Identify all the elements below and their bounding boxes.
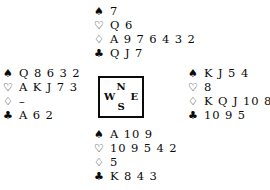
spade-icon: ♠ xyxy=(188,67,199,81)
north-clubs-line: ♣ Q J 7 xyxy=(94,46,196,60)
heart-icon: ♡ xyxy=(188,81,199,95)
club-icon: ♣ xyxy=(94,170,105,184)
heart-icon: ♡ xyxy=(94,142,105,156)
heart-icon: ♡ xyxy=(94,19,105,33)
heart-icon: ♡ xyxy=(3,81,14,95)
west-diamonds-cards: – xyxy=(14,94,26,108)
north-hearts-cards: Q 6 xyxy=(105,18,133,32)
south-spades-cards: A 10 9 xyxy=(105,127,153,141)
north-diamonds-cards: A 9 7 6 4 3 2 xyxy=(105,32,196,46)
club-icon: ♣ xyxy=(3,109,14,123)
bridge-deal-diagram: ♠ 7 ♡ Q 6 ♢ A 9 7 6 4 3 2 ♣ Q J 7 ♠ Q 8 … xyxy=(0,0,270,190)
west-clubs-line: ♣ A 6 2 xyxy=(3,108,80,122)
spade-icon: ♠ xyxy=(94,128,105,142)
west-spades-cards: Q 8 6 3 2 xyxy=(14,66,80,80)
hand-south: ♠ A 10 9 ♡ 10 9 5 4 2 ♢ 5 ♣ K 8 4 3 xyxy=(94,127,178,183)
club-icon: ♣ xyxy=(94,47,105,61)
north-clubs-cards: Q J 7 xyxy=(105,46,143,60)
east-diamonds-cards: K Q J 10 8 xyxy=(199,94,270,108)
south-clubs-line: ♣ K 8 4 3 xyxy=(94,169,178,183)
east-diamonds-line: ♢ K Q J 10 8 xyxy=(188,94,270,108)
hand-north: ♠ 7 ♡ Q 6 ♢ A 9 7 6 4 3 2 ♣ Q J 7 xyxy=(94,4,196,60)
spade-icon: ♠ xyxy=(3,67,14,81)
east-clubs-cards: 10 9 5 xyxy=(199,108,246,122)
east-spades-line: ♠ K J 5 4 xyxy=(188,66,270,80)
spade-icon: ♠ xyxy=(94,5,105,19)
club-icon: ♣ xyxy=(188,109,199,123)
east-clubs-line: ♣ 10 9 5 xyxy=(188,108,270,122)
diamond-icon: ♢ xyxy=(3,95,14,109)
compass-label-south: S xyxy=(117,102,124,112)
north-spades-cards: 7 xyxy=(105,4,118,18)
diamond-icon: ♢ xyxy=(94,156,105,170)
compass-label-west: W xyxy=(104,92,115,102)
diamond-icon: ♢ xyxy=(94,33,105,47)
north-diamonds-line: ♢ A 9 7 6 4 3 2 xyxy=(94,32,196,46)
south-hearts-line: ♡ 10 9 5 4 2 xyxy=(94,141,178,155)
south-diamonds-cards: 5 xyxy=(105,155,118,169)
west-clubs-cards: A 6 2 xyxy=(14,108,54,122)
east-hearts-cards: 8 xyxy=(199,80,212,94)
south-clubs-cards: K 8 4 3 xyxy=(105,169,158,183)
south-diamonds-line: ♢ 5 xyxy=(94,155,178,169)
hand-west: ♠ Q 8 6 3 2 ♡ A K J 7 3 ♢ – ♣ A 6 2 xyxy=(3,66,80,122)
compass-box: N W E S xyxy=(98,76,144,118)
west-hearts-line: ♡ A K J 7 3 xyxy=(3,80,80,94)
south-hearts-cards: 10 9 5 4 2 xyxy=(105,141,178,155)
east-hearts-line: ♡ 8 xyxy=(188,80,270,94)
compass-label-east: E xyxy=(130,92,138,102)
west-diamonds-line: ♢ – xyxy=(3,94,80,108)
east-spades-cards: K J 5 4 xyxy=(199,66,249,80)
west-hearts-cards: A K J 7 3 xyxy=(14,80,78,94)
hand-east: ♠ K J 5 4 ♡ 8 ♢ K Q J 10 8 ♣ 10 9 5 xyxy=(188,66,270,122)
west-spades-line: ♠ Q 8 6 3 2 xyxy=(3,66,80,80)
north-hearts-line: ♡ Q 6 xyxy=(94,18,196,32)
north-spades-line: ♠ 7 xyxy=(94,4,196,18)
south-spades-line: ♠ A 10 9 xyxy=(94,127,178,141)
compass-label-north: N xyxy=(116,82,125,92)
diamond-icon: ♢ xyxy=(188,95,199,109)
